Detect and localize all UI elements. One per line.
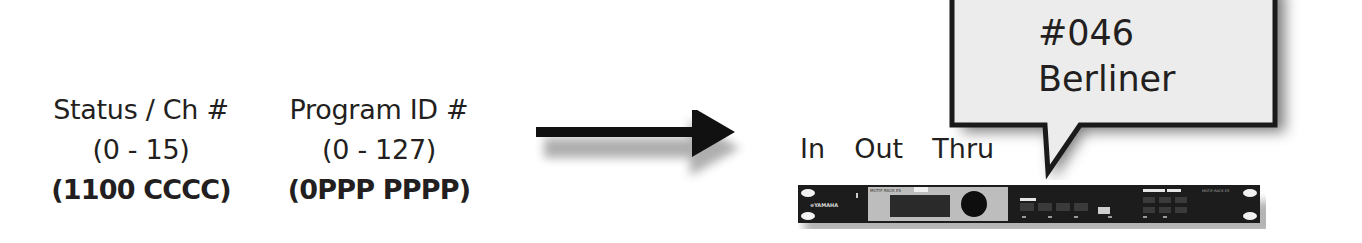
program-number: #046	[1038, 10, 1176, 56]
program-id-title: Program ID #	[268, 90, 490, 130]
svg-text:MOTIF-RACK ES: MOTIF-RACK ES	[870, 188, 901, 193]
callout-text: #046 Berliner	[1038, 10, 1176, 102]
program-name: Berliner	[1038, 56, 1176, 102]
program-id-bits: (0PPP PPPP)	[268, 170, 490, 210]
program-id-range: (0 - 127)	[268, 130, 490, 170]
status-channel-bits: (1100 CCCC)	[30, 170, 252, 210]
status-channel-field: Status / Ch # (0 - 15) (1100 CCCC)	[30, 90, 252, 210]
status-channel-title: Status / Ch #	[30, 90, 252, 130]
brand-label: ⊛YAMAHA	[810, 202, 838, 208]
status-channel-range: (0 - 15)	[30, 130, 252, 170]
svg-text:MOTIF-RACK ES: MOTIF-RACK ES	[1202, 189, 1230, 193]
synth-rack-module-icon: ⊛YAMAHA MOTIF-RACK ES MOTIF-RACK ES	[798, 183, 1266, 229]
program-id-field: Program ID # (0 - 127) (0PPP PPPP)	[268, 90, 490, 210]
arrow-right-icon	[530, 110, 750, 190]
